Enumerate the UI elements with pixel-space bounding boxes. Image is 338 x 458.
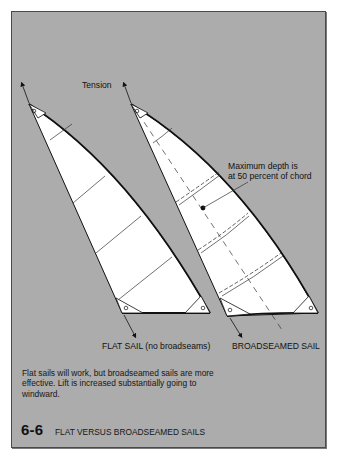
figure-number: 6-6 xyxy=(21,421,43,438)
max-depth-label-line1: Maximum depth is xyxy=(228,161,298,171)
figure-caption: Flat sails will work, but broadseamed sa… xyxy=(22,368,232,399)
tension-label: Tension xyxy=(82,80,112,90)
tack-arrow-right xyxy=(230,318,241,336)
tack-arrow-left xyxy=(124,315,135,336)
head-tension-arrow-left xyxy=(22,84,29,103)
flat-sail-label: FLAT SAIL (no broadseams) xyxy=(102,341,210,351)
head-tension-arrow-right xyxy=(124,84,131,103)
broadseamed-sail-label: BROADSEAMED SAIL xyxy=(232,341,320,351)
figure-title: FLAT VERSUS BROADSEAMED SAILS xyxy=(55,427,205,437)
max-depth-label-line2: at 50 percent of chord xyxy=(228,171,312,181)
